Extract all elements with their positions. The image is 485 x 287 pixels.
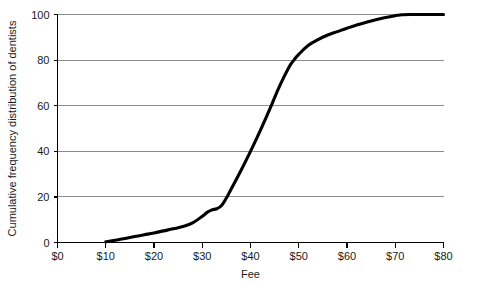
y-axis-tick-label: 60 [37,100,49,112]
chart-container: 020406080100 $0$10$20$30$40$50$60$70$80 … [0,0,485,287]
x-axis-tick-label: $70 [386,250,404,262]
x-axis-tick-label: $30 [193,250,211,262]
y-axis-tick-label: 0 [43,237,49,249]
y-axis-title: Cumulative frequency distribution of den… [6,20,18,236]
x-axis-title: Fee [241,268,260,280]
y-axis-tick-label: 20 [37,191,49,203]
y-axis-tick-label: 100 [31,9,49,21]
gridlines-group [58,15,444,243]
x-axis-tick-label: $10 [97,250,115,262]
x-axis-tick-marks [58,243,444,248]
x-axis-tick-label: $0 [51,250,63,262]
y-axis-tick-label: 80 [37,54,49,66]
x-axis-tick-labels: $0$10$20$30$40$50$60$70$80 [51,250,452,262]
x-axis-tick-label: $80 [434,250,452,262]
y-axis-tick-label: 40 [37,145,49,157]
x-axis-tick-label: $20 [145,250,163,262]
x-axis-tick-label: $60 [338,250,356,262]
data-series-line [106,14,444,241]
cumulative-frequency-ogive-chart: 020406080100 $0$10$20$30$40$50$60$70$80 … [0,0,485,287]
x-axis-tick-label: $40 [241,250,259,262]
y-axis-tick-labels: 020406080100 [31,9,49,249]
x-axis-tick-label: $50 [290,250,308,262]
